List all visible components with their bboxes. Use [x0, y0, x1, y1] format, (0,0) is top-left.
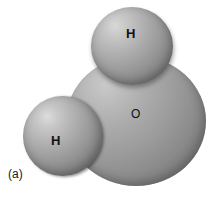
atom-label-oxygen: O [131, 108, 141, 120]
atom-label-hydrogen-top: H [126, 27, 136, 40]
atom-label-hydrogen-left: H [51, 134, 61, 147]
figure-caption: (a) [8, 168, 23, 180]
hydrogen-sphere-top [91, 7, 173, 85]
molecule-figure: H H O (a) [0, 0, 218, 205]
hydrogen-sphere-left [23, 96, 102, 176]
